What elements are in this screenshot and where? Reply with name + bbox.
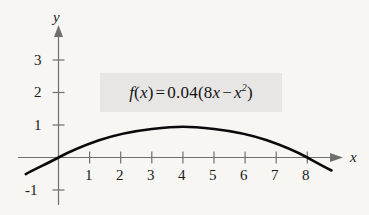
equation-equals: = <box>154 83 168 102</box>
y-axis-arrowhead <box>54 25 63 37</box>
equation-term2-variable: x <box>234 83 242 102</box>
x-axis-arrowhead <box>330 153 343 162</box>
equation-text: f(x)=0.04(8x−x2) <box>129 82 253 103</box>
x-tick-label-2: 2 <box>116 168 124 183</box>
x-tick-label-1: 1 <box>85 168 93 183</box>
y-tick-label-2: 2 <box>34 85 42 100</box>
x-tick-label-3: 3 <box>147 168 155 183</box>
equation-term1-coefficient: 8 <box>204 83 213 102</box>
x-tick-label-8: 8 <box>302 168 310 183</box>
y-axis-label: y <box>53 10 60 25</box>
equation-annotation-box: f(x)=0.04(8x−x2) <box>100 73 282 112</box>
x-tick-label-4: 4 <box>178 168 186 183</box>
x-tick-label-7: 7 <box>271 168 279 183</box>
x-tick-label-5: 5 <box>209 168 217 183</box>
equation-variable: x <box>140 83 148 102</box>
equation-coefficient: 0.04 <box>167 83 198 102</box>
figure-graph-of-quadratic-function: y x 3 2 1 -1 1 2 3 4 5 6 7 8 f(x)=0.04(8… <box>0 0 369 215</box>
y-tick-label-neg1: -1 <box>25 183 38 198</box>
x-axis-label: x <box>350 150 357 165</box>
y-tick-label-1: 1 <box>34 118 42 133</box>
equation-group-close: ) <box>247 83 253 102</box>
equation-minus: − <box>220 83 234 102</box>
y-tick-label-3: 3 <box>34 53 42 68</box>
equation-paren-close: ) <box>148 83 154 102</box>
x-tick-label-6: 6 <box>240 168 248 183</box>
